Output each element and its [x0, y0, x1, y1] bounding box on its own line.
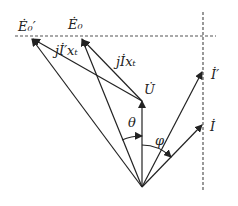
label-I: İ	[209, 118, 216, 134]
jI-xt-phasor	[83, 40, 142, 101]
label-U: U̇	[144, 82, 156, 97]
label-jIprime-xt: jİ′xₜ	[52, 42, 78, 58]
theta-arc	[122, 136, 142, 140]
jIprime-xt-phasor	[33, 39, 142, 101]
I-phasor	[142, 125, 202, 187]
label-I-prime: İ′	[210, 66, 219, 82]
label-E0: Ė₀	[67, 16, 83, 32]
label-phi: φ	[155, 133, 165, 148]
label-jI-xt: jİxₜ	[113, 53, 136, 69]
label-theta: θ	[128, 115, 136, 130]
phasor-diagram: Ė₀′ Ė₀ jİ′xₜ jİxₜ U̇ İ′ İ θ φ	[0, 0, 238, 206]
label-E0-prime: Ė₀′	[17, 18, 36, 34]
